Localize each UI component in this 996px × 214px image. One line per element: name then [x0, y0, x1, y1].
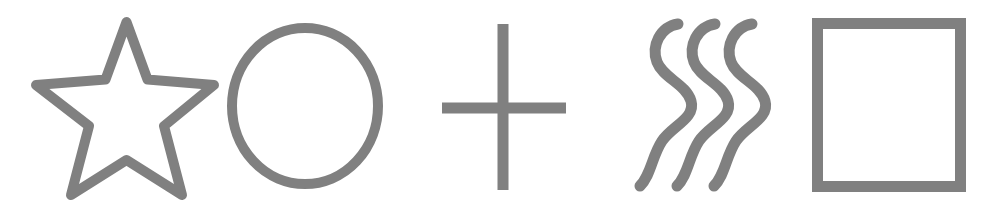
- shapes-canvas: [0, 0, 996, 214]
- shapes-illustration: [0, 0, 996, 214]
